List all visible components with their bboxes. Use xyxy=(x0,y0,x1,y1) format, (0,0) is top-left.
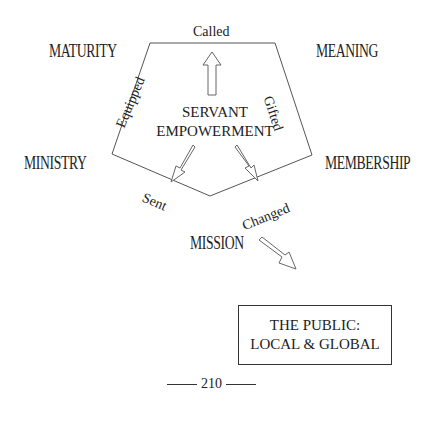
corner-label-maturity: MATURITY xyxy=(49,40,117,62)
arrow-outward-icon xyxy=(259,237,296,269)
page-rule-right xyxy=(226,384,256,385)
corner-label-membership: MEMBERSHIP xyxy=(325,152,410,174)
edge-label-called: Called xyxy=(193,24,230,40)
outcome-box-line-1: THE PUBLIC: xyxy=(239,316,391,335)
outcome-box: THE PUBLIC: LOCAL & GLOBAL xyxy=(238,305,392,365)
page-rule-left xyxy=(167,384,197,385)
outcome-box-line-2: LOCAL & GLOBAL xyxy=(239,335,391,354)
corner-label-mission: MISSION xyxy=(190,232,244,254)
center-label-line-1: SERVANT xyxy=(153,103,277,122)
corner-label-meaning: MEANING xyxy=(316,40,378,62)
center-label-line-2: EMPOWERMENT xyxy=(153,122,277,141)
page-number: 210 xyxy=(167,376,256,392)
arrow-down-left-icon xyxy=(171,145,195,182)
arrow-up-icon xyxy=(203,52,221,95)
center-label: SERVANT EMPOWERMENT xyxy=(153,103,277,141)
corner-label-ministry: MINISTRY xyxy=(24,152,86,174)
page-number-text: 210 xyxy=(201,376,222,391)
arrow-down-right-icon xyxy=(235,145,258,181)
